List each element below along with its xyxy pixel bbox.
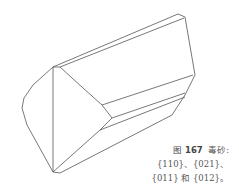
crystal-edge	[22, 67, 53, 172]
caption-label: 图	[173, 145, 182, 155]
crystal-edge	[53, 14, 178, 67]
caption-line-3: {011} 和 {012}。	[119, 171, 229, 185]
crystal-edge	[60, 18, 184, 67]
crystal-edge	[112, 93, 185, 118]
caption-line-2: {110}、{021}、	[119, 157, 229, 171]
caption-number: 167	[185, 145, 203, 155]
caption-line-1: 图 167 毒砂:	[119, 143, 229, 157]
caption-mineral: 毒砂:	[208, 145, 229, 155]
crystal-edge	[53, 172, 60, 173]
crystal-edge	[100, 97, 185, 130]
crystal-edge	[53, 67, 112, 172]
crystal-edge	[178, 14, 185, 17]
crystal-edge	[102, 75, 193, 105]
figure-caption: 图 167 毒砂: {110}、{021}、 {011} 和 {012}。	[119, 143, 229, 185]
